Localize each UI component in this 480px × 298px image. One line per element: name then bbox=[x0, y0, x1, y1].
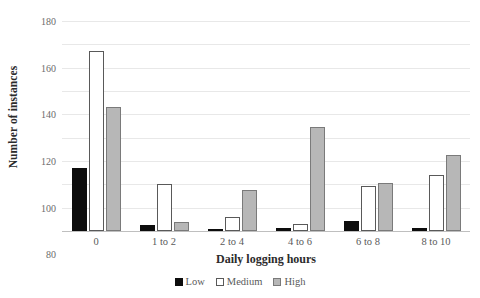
legend-item-high[interactable]: High bbox=[273, 276, 305, 287]
x-axis-tick-labels: 01 to 22 to 44 to 66 to 88 to 10 bbox=[62, 236, 470, 252]
bar-medium[interactable] bbox=[293, 224, 308, 231]
bar-group-bars bbox=[130, 21, 198, 231]
bar-low[interactable] bbox=[276, 228, 291, 232]
x-axis-tick-label: 0 bbox=[62, 236, 130, 252]
legend-label: High bbox=[284, 276, 305, 287]
bar-chart: Number of instances 02040608010012014016… bbox=[0, 0, 480, 298]
bar-medium[interactable] bbox=[225, 217, 240, 231]
bar-group-bars bbox=[198, 21, 266, 231]
x-axis-title: Daily logging hours bbox=[62, 252, 470, 267]
bar-high[interactable] bbox=[378, 183, 393, 231]
plot-area: 020406080100120140160180 bbox=[62, 21, 470, 231]
x-axis-tick-label: 8 to 10 bbox=[402, 236, 470, 252]
bar-group bbox=[266, 21, 334, 231]
bar-medium[interactable] bbox=[361, 186, 376, 232]
bar-group bbox=[198, 21, 266, 231]
medium-swatch bbox=[216, 278, 224, 286]
bar-group bbox=[62, 21, 130, 231]
bar-high[interactable] bbox=[174, 222, 189, 231]
legend-label: Medium bbox=[227, 276, 263, 287]
bar-group bbox=[402, 21, 470, 231]
legend-item-medium[interactable]: Medium bbox=[216, 276, 263, 287]
y-axis-tick-label: 160 bbox=[41, 62, 56, 73]
bar-groups bbox=[62, 21, 470, 231]
bar-high[interactable] bbox=[446, 155, 461, 231]
chart-legend: LowMediumHigh bbox=[0, 276, 480, 287]
x-axis-tick-label: 2 to 4 bbox=[198, 236, 266, 252]
y-axis-tick-label: 180 bbox=[41, 16, 56, 27]
bar-group bbox=[334, 21, 402, 231]
bar-group-bars bbox=[402, 21, 470, 231]
y-axis-tick-label: 140 bbox=[41, 109, 56, 120]
low-swatch bbox=[175, 278, 183, 286]
legend-item-low[interactable]: Low bbox=[175, 276, 205, 287]
bar-medium[interactable] bbox=[157, 184, 172, 231]
bar-group-bars bbox=[266, 21, 334, 231]
x-axis-tick-label: 6 to 8 bbox=[334, 236, 402, 252]
legend-label: Low bbox=[186, 276, 205, 287]
y-axis-tick-label: 100 bbox=[41, 202, 56, 213]
bar-medium[interactable] bbox=[89, 51, 104, 231]
bar-low[interactable] bbox=[72, 168, 87, 231]
bar-high[interactable] bbox=[310, 127, 325, 231]
bar-low[interactable] bbox=[140, 225, 155, 231]
y-axis-title-text: Number of instances bbox=[7, 66, 19, 169]
high-swatch bbox=[273, 278, 281, 286]
bar-medium[interactable] bbox=[429, 175, 444, 231]
bar-high[interactable] bbox=[106, 107, 121, 231]
bar-group-bars bbox=[62, 21, 130, 231]
x-axis-tick-label: 4 to 6 bbox=[266, 236, 334, 252]
bar-group bbox=[130, 21, 198, 231]
bar-group-bars bbox=[334, 21, 402, 231]
gridline: 0 bbox=[62, 231, 470, 232]
y-axis-tick-label: 80 bbox=[46, 249, 56, 260]
bar-high[interactable] bbox=[242, 190, 257, 231]
bar-low[interactable] bbox=[412, 228, 427, 232]
bar-low[interactable] bbox=[344, 221, 359, 232]
bar-low[interactable] bbox=[208, 229, 223, 231]
x-axis-tick-label: 1 to 2 bbox=[130, 236, 198, 252]
y-axis-title: Number of instances bbox=[0, 0, 26, 234]
y-axis-tick-label: 120 bbox=[41, 156, 56, 167]
